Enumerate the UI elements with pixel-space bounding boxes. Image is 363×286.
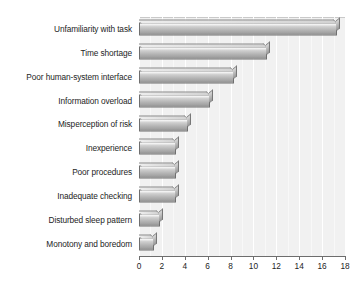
- bar-row: [139, 184, 345, 208]
- tick-label: 4: [182, 262, 187, 270]
- tick-mark: [322, 256, 323, 260]
- category-label: Poor procedures: [0, 160, 137, 184]
- tick-mark: [208, 256, 209, 260]
- tick-label: 18: [340, 262, 349, 270]
- tick-label: 6: [205, 262, 210, 270]
- tick-label: 14: [295, 262, 304, 270]
- tick-mark: [162, 256, 163, 260]
- bar[interactable]: [139, 70, 234, 83]
- category-label: Time shortage: [0, 41, 137, 65]
- bar[interactable]: [139, 118, 188, 131]
- category-label: Misperception of risk: [0, 113, 137, 137]
- category-label: Monotony and boredom: [0, 232, 137, 256]
- x-axis-ticks: 024681012141618: [139, 256, 345, 286]
- tick-label: 12: [272, 262, 281, 270]
- bar[interactable]: [139, 46, 267, 59]
- bar-row: [139, 65, 345, 89]
- bar-row: [139, 113, 345, 137]
- bar-row: [139, 208, 345, 232]
- bar-row: [139, 89, 345, 113]
- category-label: Poor human-system interface: [0, 65, 137, 89]
- bar[interactable]: [139, 214, 160, 227]
- tick-mark: [139, 256, 140, 260]
- category-label: Information overload: [0, 89, 137, 113]
- tick-label: 10: [249, 262, 258, 270]
- category-label: Inexperience: [0, 137, 137, 161]
- tick-mark: [299, 256, 300, 260]
- bar-row: [139, 17, 345, 41]
- tick-mark: [276, 256, 277, 260]
- plot-area: [139, 17, 345, 256]
- bar[interactable]: [139, 238, 154, 251]
- category-label: Disturbed sleep pattern: [0, 208, 137, 232]
- bar-row: [139, 137, 345, 161]
- category-axis-labels: Unfamiliarity with task Time shortage Po…: [0, 17, 137, 256]
- bar[interactable]: [139, 94, 210, 107]
- bar-row: [139, 232, 345, 256]
- tick-label: 0: [137, 262, 142, 270]
- tick-label: 8: [228, 262, 233, 270]
- tick-mark: [185, 256, 186, 260]
- category-label: Inadequate checking: [0, 184, 137, 208]
- bar-row: [139, 41, 345, 65]
- bar-row: [139, 160, 345, 184]
- bar-chart: Unfamiliarity with task Time shortage Po…: [0, 0, 363, 286]
- tick-mark: [253, 256, 254, 260]
- tick-mark: [231, 256, 232, 260]
- bar[interactable]: [139, 22, 337, 35]
- category-label: Unfamiliarity with task: [0, 17, 137, 41]
- bar[interactable]: [139, 166, 176, 179]
- tick-label: 2: [160, 262, 165, 270]
- bar-series: [139, 17, 345, 256]
- tick-mark: [345, 256, 346, 260]
- tick-label: 16: [317, 262, 326, 270]
- bar[interactable]: [139, 190, 176, 203]
- bar[interactable]: [139, 142, 176, 155]
